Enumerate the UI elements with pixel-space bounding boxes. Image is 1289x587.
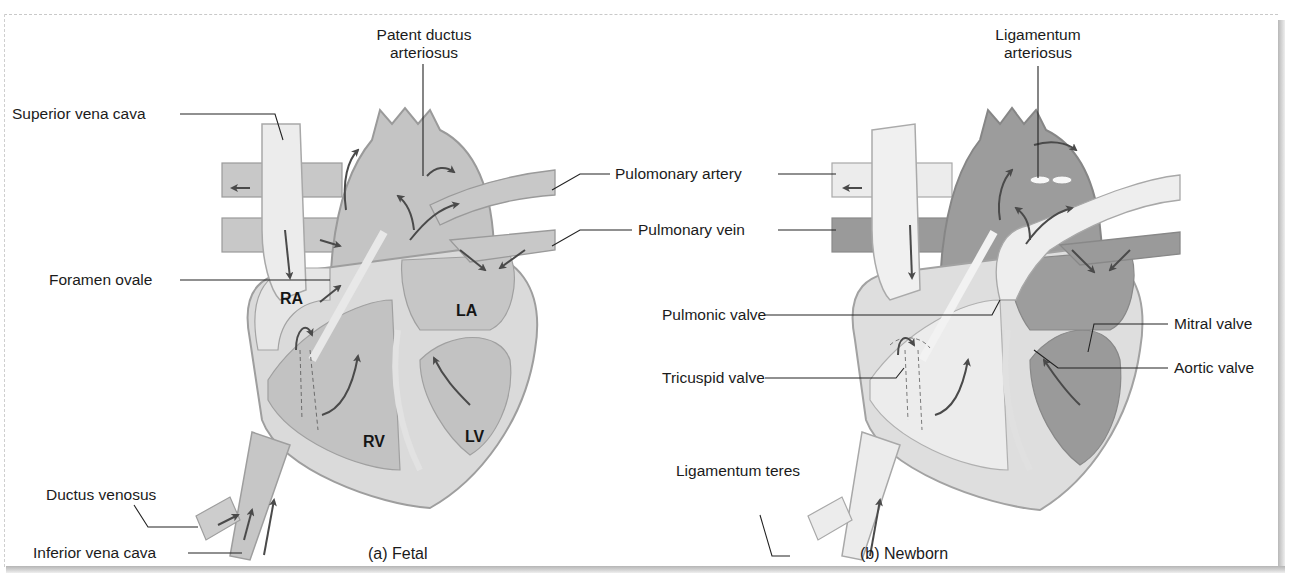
chamber-la: LA [456, 302, 477, 320]
label-foramen-ovale: Foramen ovale [49, 271, 152, 289]
label-line: arteriosus [982, 44, 1094, 62]
label-mitral-valve: Mitral valve [1174, 315, 1252, 333]
label-ductus-venosus: Ductus venosus [46, 486, 156, 504]
label-pulmonary-artery: Pulomonary artery [615, 165, 742, 183]
newborn-heart [808, 108, 1180, 560]
label-patent-ductus-arteriosus: Patent ductus arteriosus [356, 26, 492, 62]
chamber-ra: RA [280, 290, 303, 308]
label-line: arteriosus [356, 44, 492, 62]
label-pulmonic-valve: Pulmonic valve [662, 306, 766, 324]
label-aortic-valve: Aortic valve [1174, 359, 1254, 377]
fetal-heart [196, 108, 555, 560]
label-pulmonary-vein: Pulmonary vein [638, 221, 745, 239]
caption-fetal: (a) Fetal [368, 545, 428, 563]
label-superior-vena-cava: Superior vena cava [12, 105, 146, 123]
caption-newborn: (b) Newborn [860, 545, 948, 563]
chamber-lv: LV [465, 428, 484, 446]
label-line: Patent ductus [356, 26, 492, 44]
heart-diagram-art [0, 0, 1289, 587]
label-line: Ligamentum [982, 26, 1094, 44]
label-tricuspid-valve: Tricuspid valve [662, 369, 765, 387]
chamber-rv: RV [363, 433, 385, 451]
label-ligamentum-arteriosus: Ligamentum arteriosus [982, 26, 1094, 62]
label-ligamentum-teres: Ligamentum teres [676, 462, 800, 480]
label-inferior-vena-cava: Inferior vena cava [33, 544, 156, 562]
